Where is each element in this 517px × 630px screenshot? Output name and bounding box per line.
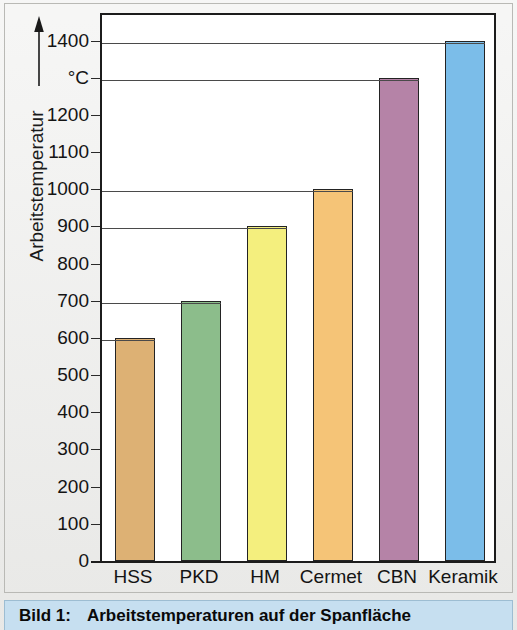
plot-area <box>100 13 496 561</box>
bar-keramik <box>445 41 485 561</box>
y-tick-mark <box>91 264 100 265</box>
figure-caption-title: Arbeitstemperaturen auf der Spanfläche <box>87 606 411 625</box>
category-label-keramik: Keramik <box>428 566 498 588</box>
gridline-1400 <box>102 43 485 44</box>
category-label-hm: HM <box>250 566 280 588</box>
figure-caption-text: Bild 1:Arbeitstemperaturen auf der Spanf… <box>19 606 411 626</box>
gridline-600 <box>102 340 155 341</box>
bar-pkd <box>181 301 221 561</box>
figure-bild-1: Arbeitstemperatur 0100200300400500600700… <box>0 0 517 630</box>
y-tick-mark <box>91 338 100 339</box>
y-tick-label: 900 <box>27 215 89 237</box>
bar-hm <box>247 226 287 561</box>
y-tick-mark <box>91 152 100 153</box>
y-tick-mark <box>91 41 100 42</box>
plot-inner <box>102 15 494 561</box>
y-tick-mark <box>91 487 100 488</box>
category-label-cermet: Cermet <box>300 566 362 588</box>
figure-caption-bar: Bild 1:Arbeitstemperaturen auf der Spanf… <box>4 600 513 630</box>
y-tick-mark <box>91 375 100 376</box>
y-tick-mark <box>91 524 100 525</box>
y-tick-mark <box>91 226 100 227</box>
y-tick-label: 400 <box>27 401 89 423</box>
y-tick-label: 100 <box>27 513 89 535</box>
category-label-hss: HSS <box>113 566 152 588</box>
y-tick-label: 1000 <box>27 178 89 200</box>
figure-caption-label: Bild 1: <box>19 606 71 626</box>
y-tick-label: 800 <box>27 253 89 275</box>
y-tick-label: 1200 <box>27 104 89 126</box>
gridline-1000 <box>102 191 353 192</box>
y-axis-tick-labels: 0100200300400500600700800900100011001200… <box>20 0 89 630</box>
category-label-cbn: CBN <box>377 566 417 588</box>
y-tick-mark <box>91 449 100 450</box>
category-label-pkd: PKD <box>179 566 218 588</box>
gridline-700 <box>102 303 221 304</box>
bar-cbn <box>379 78 419 561</box>
x-axis-baseline <box>91 561 496 563</box>
y-tick-label: 0 <box>27 550 89 572</box>
y-tick-label: 600 <box>27 327 89 349</box>
y-tick-label: 300 <box>27 438 89 460</box>
y-tick-label: 500 <box>27 364 89 386</box>
bar-cermet <box>313 189 353 561</box>
y-tick-mark <box>91 78 100 79</box>
y-tick-label: 1100 <box>27 141 89 163</box>
y-tick-label: °C <box>27 67 89 89</box>
y-tick-label: 1400 <box>27 30 89 52</box>
y-tick-label: 200 <box>27 476 89 498</box>
y-tick-mark <box>91 115 100 116</box>
y-tick-mark <box>91 189 100 190</box>
gridline-900 <box>102 228 287 229</box>
y-tick-mark <box>91 412 100 413</box>
y-tick-mark <box>91 301 100 302</box>
y-tick-label: 700 <box>27 290 89 312</box>
gridline-1300 <box>102 80 419 81</box>
bar-hss <box>115 338 155 561</box>
